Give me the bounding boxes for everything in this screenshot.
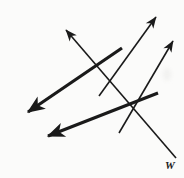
vertex-label-w: W <box>165 160 175 171</box>
thin-ray-to-upper-right-lower <box>119 41 173 133</box>
thick-ray-to-lower-left-upper <box>28 48 122 112</box>
geometry-figure-canvas: W <box>0 0 184 178</box>
thick-ray-to-lower-left-lower <box>48 93 158 136</box>
line-diagram-svg <box>0 0 184 178</box>
